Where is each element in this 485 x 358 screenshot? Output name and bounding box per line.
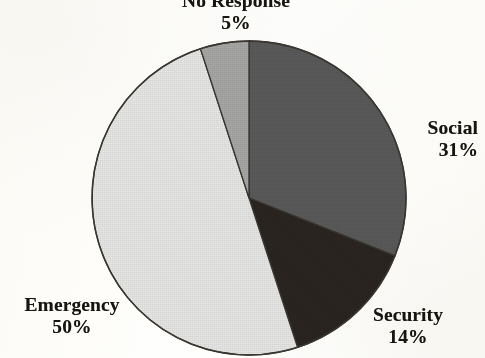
slice-label-no-response: No Response 5% — [148, 0, 324, 33]
slice-label-social-name: Social — [398, 118, 484, 139]
pie-chart-figure: No Response 5% Social 31% Security 14% E… — [0, 0, 485, 358]
slice-label-no-response-name: No Response — [148, 0, 324, 12]
slice-label-emergency: Emergency 50% — [2, 295, 142, 337]
slice-label-social-percent: 31% — [398, 140, 484, 161]
slice-label-social: Social 31% — [398, 118, 484, 160]
slice-label-security-name: Security — [352, 305, 464, 326]
slice-label-emergency-percent: 50% — [2, 317, 142, 338]
slice-label-emergency-name: Emergency — [2, 295, 142, 316]
slice-label-no-response-percent: 5% — [148, 13, 324, 34]
slice-label-security-percent: 14% — [352, 327, 464, 348]
slice-label-security: Security 14% — [352, 305, 464, 347]
